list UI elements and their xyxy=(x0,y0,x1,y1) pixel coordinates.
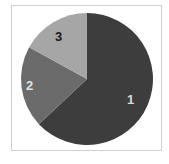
pie-slices xyxy=(21,13,153,145)
pie-chart: 1 2 3 xyxy=(0,0,169,164)
slice-label-3: 3 xyxy=(55,29,62,44)
slice-label-1: 1 xyxy=(127,92,134,107)
slice-label-2: 2 xyxy=(26,78,33,93)
